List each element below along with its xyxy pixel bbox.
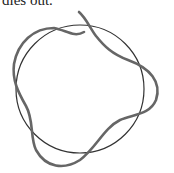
- perturbed-loop: [14, 12, 158, 166]
- circle-perturbation-diagram: [0, 0, 174, 173]
- reference-circle: [16, 25, 144, 153]
